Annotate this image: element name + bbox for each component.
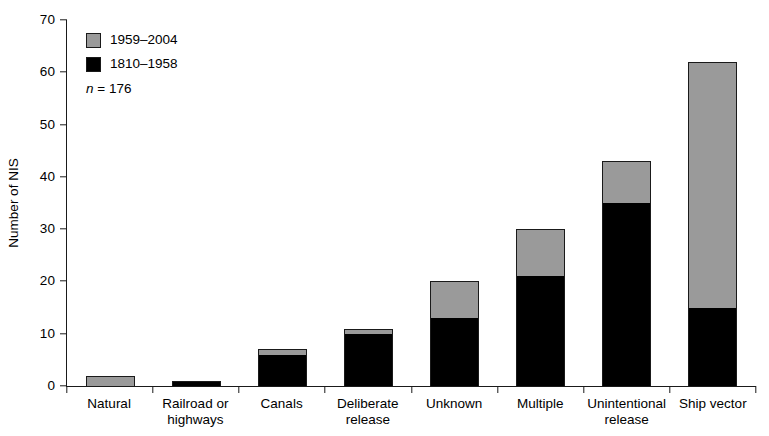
y-axis-title: Number of NIS (6, 158, 21, 247)
bar-slot[interactable] (584, 20, 670, 386)
x-axis-category-line: Unknown (412, 396, 496, 412)
y-axis-tick (60, 124, 67, 125)
stacked-bar[interactable] (688, 62, 737, 386)
bar-segment-1810-1958[interactable] (430, 318, 479, 386)
bar-segment-1810-1958[interactable] (344, 334, 393, 386)
y-axis-tick (60, 72, 67, 73)
bar-slot[interactable] (325, 20, 411, 386)
x-axis-category-line: Ship vector (671, 396, 755, 412)
bar-segment-1959-2004[interactable] (688, 62, 737, 308)
x-axis-category-line: release (585, 412, 669, 428)
bar-segment-1810-1958[interactable] (516, 276, 565, 386)
legend-item-recent: 1959–2004 (86, 28, 178, 52)
x-axis-category-line: Deliberate (326, 396, 410, 412)
y-axis-tick (60, 281, 67, 282)
bar-segment-1810-1958[interactable] (688, 308, 737, 386)
y-axis-tick-label: 50 (21, 118, 55, 132)
x-axis-category-label: Unknown (411, 396, 497, 428)
y-axis-tick-label: 40 (21, 170, 55, 184)
x-axis-category-line: Unintentional (585, 396, 669, 412)
bar-slot[interactable] (670, 20, 756, 386)
x-axis-tick (583, 386, 584, 393)
x-axis-tick (669, 386, 670, 393)
x-axis-category-line: Natural (67, 396, 151, 412)
stacked-bar[interactable] (344, 329, 393, 387)
stacked-bar[interactable] (516, 229, 565, 386)
x-axis-tick (152, 386, 153, 393)
legend-label-historic: 1810–1958 (110, 57, 178, 71)
x-axis-tick (411, 386, 412, 393)
y-axis-tick-label: 30 (21, 222, 55, 236)
y-axis-tick (60, 176, 67, 177)
x-axis-category-label: Railroad orhighways (152, 396, 238, 428)
bar-slot[interactable] (498, 20, 584, 386)
x-axis-category-label: Canals (239, 396, 325, 428)
legend-label-recent: 1959–2004 (110, 33, 178, 47)
bar-segment-1959-2004[interactable] (602, 161, 651, 203)
y-axis-tick-label: 70 (21, 13, 55, 27)
y-axis-tick-label: 0 (21, 379, 55, 393)
x-axis-category-line: highways (153, 412, 237, 428)
bar-segment-1959-2004[interactable] (516, 229, 565, 276)
sample-size-symbol: n (86, 81, 94, 96)
bar-segment-1959-2004[interactable] (430, 281, 479, 318)
bar-segment-1959-2004[interactable] (86, 376, 135, 386)
x-axis-tick (239, 386, 240, 393)
x-axis-tick (497, 386, 498, 393)
x-axis-category-label: Natural (66, 396, 152, 428)
legend-item-historic: 1810–1958 (86, 52, 178, 76)
x-axis-category-line: Multiple (498, 396, 582, 412)
stacked-bar[interactable] (258, 349, 307, 386)
bar-slot[interactable] (239, 20, 325, 386)
bar-segment-1810-1958[interactable] (258, 355, 307, 386)
bar-segment-1810-1958[interactable] (602, 203, 651, 386)
x-axis-labels: NaturalRailroad orhighwaysCanalsDelibera… (66, 396, 756, 428)
y-axis-tick (60, 19, 67, 20)
sample-size-value: = 176 (97, 81, 131, 96)
legend-swatch-black (86, 57, 101, 72)
y-axis-tick (60, 333, 67, 334)
stacked-bar[interactable] (172, 381, 221, 386)
y-axis-tick (60, 228, 67, 229)
y-axis-tick-label: 20 (21, 275, 55, 289)
x-axis-tick (755, 386, 756, 393)
stacked-bar[interactable] (602, 161, 651, 386)
stacked-bar-chart-figure: Number of NIS 010203040506070 NaturalRai… (0, 0, 769, 436)
x-axis-category-label: Ship vector (670, 396, 756, 428)
x-axis-category-line: Canals (240, 396, 324, 412)
x-axis-category-label: Unintentionalrelease (584, 396, 670, 428)
legend-swatch-gray (86, 33, 101, 48)
stacked-bar[interactable] (86, 376, 135, 386)
legend: 1959–2004 1810–1958 n = 176 (86, 28, 178, 100)
y-axis-tick-label: 10 (21, 327, 55, 341)
bar-segment-1810-1958[interactable] (172, 381, 221, 386)
x-axis-category-line: release (326, 412, 410, 428)
x-axis-category-label: Deliberaterelease (325, 396, 411, 428)
bar-slot[interactable] (412, 20, 498, 386)
x-axis-category-line: Railroad or (153, 396, 237, 412)
x-axis-tick (66, 386, 67, 393)
y-axis-tick-label: 60 (21, 66, 55, 80)
x-axis-category-label: Multiple (497, 396, 583, 428)
stacked-bar[interactable] (430, 281, 479, 386)
x-axis-tick (325, 386, 326, 393)
sample-size-note: n = 176 (86, 76, 178, 100)
